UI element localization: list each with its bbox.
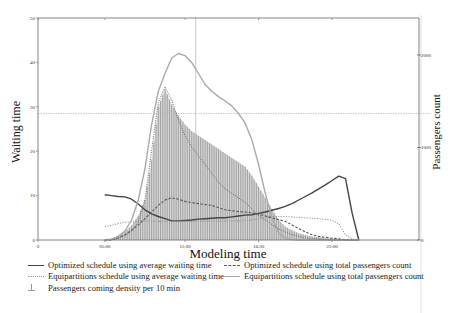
light-line-swatch-icon bbox=[224, 276, 240, 277]
legend-item-equipartitions-avg-wait: Equipartitions schedule using average wa… bbox=[28, 271, 224, 281]
legend-label: Optimized schedule using average waiting… bbox=[48, 260, 211, 270]
y-axis-title-right: Passengers count bbox=[430, 94, 442, 169]
legend-item-equipartitions-total-passengers: Equipartitions schedule using total pass… bbox=[224, 271, 424, 281]
svg-text:05:00: 05:00 bbox=[99, 244, 111, 249]
dotted-line-swatch-icon bbox=[28, 276, 44, 277]
y-axis-title-left: Waiting time bbox=[9, 101, 23, 163]
svg-text:0: 0 bbox=[33, 238, 36, 243]
bar-swatch-icon bbox=[28, 284, 44, 292]
legend-item-passenger-density: Passengers coming density per 10 min bbox=[28, 283, 180, 293]
legend-item-optimized-avg-wait: Optimized schedule using average waiting… bbox=[28, 260, 211, 270]
x-axis-title: Modeling time bbox=[190, 246, 267, 261]
legend-item-optimized-total-passengers: Optimized schedule using total passenger… bbox=[224, 260, 411, 270]
dashed-line-swatch-icon bbox=[224, 265, 240, 266]
solid-line-swatch-icon bbox=[28, 265, 44, 266]
legend-label: Passengers coming density per 10 min bbox=[48, 283, 180, 293]
svg-text:10: 10 bbox=[30, 193, 36, 198]
svg-text:0: 0 bbox=[421, 238, 424, 243]
svg-text:20: 20 bbox=[30, 149, 36, 154]
legend-label: Equipartitions schedule using average wa… bbox=[48, 271, 224, 281]
svg-text:40: 40 bbox=[30, 60, 36, 65]
legend-label: Optimized schedule using total passenger… bbox=[244, 260, 411, 270]
svg-text:50: 50 bbox=[30, 16, 36, 21]
legend-label: Equipartitions schedule using total pass… bbox=[244, 271, 424, 281]
svg-text:0: 0 bbox=[37, 244, 40, 249]
svg-text:30: 30 bbox=[30, 105, 36, 110]
svg-text:2000: 2000 bbox=[421, 53, 432, 58]
svg-text:22:00: 22:00 bbox=[326, 244, 338, 249]
